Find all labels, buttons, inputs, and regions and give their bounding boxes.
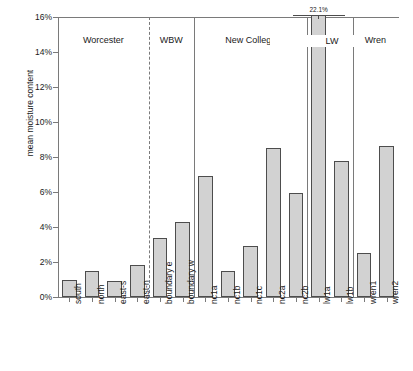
plot-top-border [58,17,399,18]
y-tick-label: 0% [22,293,52,301]
x-tick-label-nc1b: nc1b [232,286,242,304]
x-tick [251,298,252,302]
x-tick [137,298,138,302]
x-tick [92,298,93,302]
x-tick [273,298,274,302]
y-axis-line [58,17,59,298]
plot-area: 0%2%4%6%8%10%12%14%16% WorcesterWBWNew C… [58,17,398,297]
x-tick-label-north: north [96,285,106,304]
y-tick [53,297,58,298]
y-tick-label: 6% [22,188,52,196]
x-tick-label-nc2b: nc2b [300,286,310,304]
x-tick [228,298,229,302]
x-tick [205,298,206,302]
y-tick-label: 14% [22,48,52,56]
x-tick-label-nc1a: nc1a [209,286,219,304]
x-tick-label-nc1c: nc1c [254,286,264,304]
y-tick-label: 4% [22,223,52,231]
y-tick-label: 12% [22,83,52,91]
y-tick [53,262,58,263]
x-tick [183,298,184,302]
x-tick [69,298,70,302]
bar-wren2[interactable] [379,146,394,297]
y-tick-label: 8% [22,153,52,161]
y-tick [53,52,58,53]
x-tick-label-lw1b: lw1b [345,287,355,304]
bar-chart-figure: mean moisture content 0%2%4%6%8%10%12%14… [0,0,413,371]
x-tick-label-east-s: east-s [118,281,128,304]
x-tick-label-south: south [73,283,83,304]
x-tick-label-wren1: wren1 [368,281,378,304]
x-tick [341,298,342,302]
y-tick [53,17,58,18]
x-tick [387,298,388,302]
y-tick-label: 10% [22,118,52,126]
bar-nc1a[interactable] [198,176,213,297]
x-tick [115,298,116,302]
group-separator [194,17,195,298]
y-tick [53,192,58,193]
y-tick-label: 2% [22,258,52,266]
group-separator [149,17,150,298]
group-separator [307,17,308,298]
bar-lw1b[interactable] [334,161,349,297]
x-tick-label-boundary-e: boundary e [164,261,174,304]
clipped-bar-annotation: 22.1% [289,6,349,13]
y-tick-label: 16% [22,13,52,21]
y-tick [53,122,58,123]
x-tick-label-boundary-w: boundary w [186,260,196,304]
y-tick [53,87,58,88]
group-separator [353,17,354,298]
y-tick [53,227,58,228]
x-tick [160,298,161,302]
group-label-wren: Wren [315,35,413,45]
bar-lw1a[interactable] [311,15,326,297]
x-tick [319,298,320,302]
x-tick [296,298,297,302]
x-tick-label-wren2: wren2 [390,281,400,304]
x-tick-label-east-n: east-n [141,280,151,304]
bar-nc2b[interactable] [289,193,304,297]
x-tick-label-lw1a: lw1a [322,287,332,304]
x-tick [364,298,365,302]
annotation-bracket [293,15,345,16]
bar-nc2a[interactable] [266,148,281,297]
x-tick-label-nc2a: nc2a [277,286,287,304]
y-tick [53,157,58,158]
